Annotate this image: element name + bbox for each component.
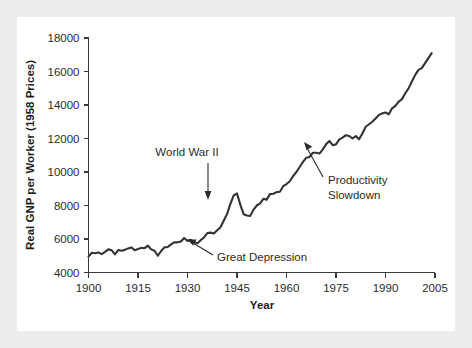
x-tick-label: 1900: [76, 282, 102, 294]
annotation-world-war-ii: World War II: [155, 146, 218, 200]
y-tick-label: 12000: [48, 133, 80, 145]
x-axis-ticks: 19001915193019451960197519902005: [76, 273, 448, 294]
x-tick-label: 1915: [125, 282, 151, 294]
x-tick-label: 1990: [373, 282, 399, 294]
x-axis-title: Year: [250, 299, 275, 311]
y-tick-label: 4000: [54, 267, 80, 279]
x-tick-label: 1960: [274, 282, 300, 294]
annotation-label-great-depression: Great Depression: [217, 251, 307, 263]
annotation-label-world-war-ii: World War II: [155, 146, 218, 158]
x-tick-label: 1930: [175, 282, 201, 294]
y-tick-label: 6000: [54, 233, 80, 245]
annotation-productivity-slowdown: Productivity Slowdown: [304, 142, 388, 201]
y-axis-ticks: 4000600080001000012000140001600018000: [48, 32, 89, 279]
figure-card: 4000600080001000012000140001600018000 Re…: [17, 17, 455, 331]
annotation-arrow-head-productivity-slowdown: [304, 142, 312, 150]
x-axis: 19001915193019451960197519902005 Year: [76, 273, 448, 312]
y-axis: 4000600080001000012000140001600018000 Re…: [24, 32, 89, 279]
annotation-great-depression: Great Depression: [187, 240, 307, 264]
y-tick-label: 10000: [48, 166, 80, 178]
x-tick-label: 2005: [422, 282, 448, 294]
series-line-real-gnp-per-worker: [89, 53, 432, 257]
plot-area: [89, 53, 432, 257]
annotation-label-productivity-slowdown-line2: Slowdown: [328, 189, 380, 201]
y-tick-label: 18000: [48, 32, 80, 44]
annotation-arrow-head-world-war-ii: [205, 191, 212, 200]
gnp-per-worker-line-chart: 4000600080001000012000140001600018000 Re…: [17, 17, 455, 331]
figure-root: 4000600080001000012000140001600018000 Re…: [0, 0, 472, 348]
x-tick-label: 1945: [224, 282, 250, 294]
y-tick-label: 14000: [48, 99, 80, 111]
annotation-label-productivity-slowdown-line1: Productivity: [328, 174, 388, 186]
annotation-arrow-line-great-depression: [193, 243, 213, 255]
x-tick-label: 1975: [323, 282, 349, 294]
y-tick-label: 16000: [48, 66, 80, 78]
y-axis-title: Real GNP per Worker (1958 Prices): [24, 60, 36, 250]
y-tick-label: 8000: [54, 200, 80, 212]
